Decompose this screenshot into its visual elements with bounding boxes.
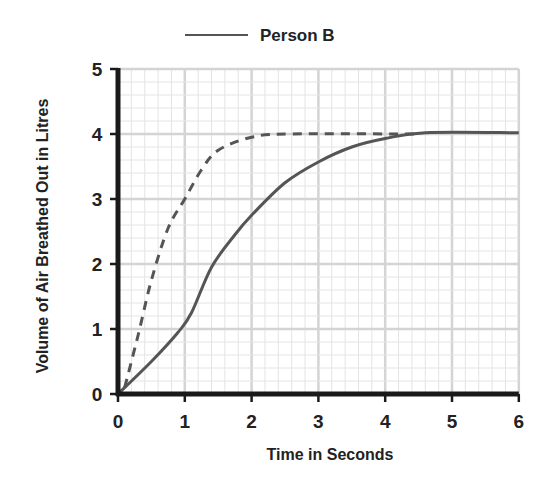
y-axis-title: Volume of Air Breathed Out in Litres [34,99,51,374]
y-tick-label: 1 [92,319,103,340]
x-tick-label: 1 [180,411,191,432]
line-chart: 0123450123456 Person B Time in Seconds V… [0,0,553,489]
series-line-dashed [125,134,419,388]
x-tick-label: 0 [113,411,124,432]
x-tick-label: 4 [380,411,391,432]
tick-labels: 0123450123456 [92,59,524,432]
y-tick-label: 2 [92,254,103,275]
y-tick-label: 0 [92,384,103,405]
grid [118,69,519,394]
y-tick-label: 3 [92,189,103,210]
x-tick-label: 2 [246,411,257,432]
y-tick-label: 5 [92,59,103,80]
x-tick-label: 6 [514,411,525,432]
legend-label-person-b: Person B [260,26,335,45]
x-tick-label: 3 [313,411,324,432]
x-tick-label: 5 [447,411,458,432]
legend: Person B [185,26,335,45]
x-axis-title: Time in Seconds [267,446,394,463]
y-tick-label: 4 [92,124,103,145]
